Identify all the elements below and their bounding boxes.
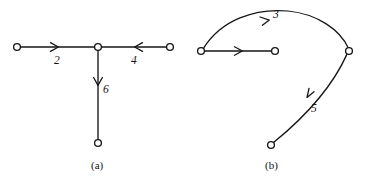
node-b-middle[interactable] xyxy=(272,48,279,55)
edge-b-right-to-bottom-line xyxy=(274,54,348,143)
panel-caption-a: (a) xyxy=(91,160,103,171)
panel-a-graph xyxy=(14,43,174,147)
node-b-bottom[interactable] xyxy=(268,142,275,149)
edge-weight-label-b-3: 3 xyxy=(273,9,279,21)
edge-weight-label-a-6: 6 xyxy=(103,84,109,96)
graph-figure-canvas xyxy=(0,0,369,181)
edge-weight-label-a-4: 4 xyxy=(131,55,137,67)
node-a-right[interactable] xyxy=(167,44,174,51)
edge-b-right-to-bottom-arrowhead xyxy=(307,89,314,98)
node-b-left[interactable] xyxy=(198,48,205,55)
figure-container: 2 4 6 3 5 (a) (b) xyxy=(0,0,369,181)
panel-b-graph xyxy=(198,11,353,149)
node-a-left[interactable] xyxy=(14,44,21,51)
node-a-center[interactable] xyxy=(95,44,102,51)
edge-weight-label-b-5: 5 xyxy=(311,103,317,115)
node-a-bottom[interactable] xyxy=(95,140,102,147)
panel-caption-b: (b) xyxy=(265,160,278,171)
node-b-right[interactable] xyxy=(346,48,353,55)
edge-b-left-to-right-arc-arrowhead xyxy=(260,17,269,25)
edge-weight-label-a-2: 2 xyxy=(54,55,60,67)
